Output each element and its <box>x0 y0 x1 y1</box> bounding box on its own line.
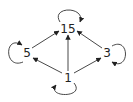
edge-5-to-15 <box>32 31 59 48</box>
loop-15 <box>58 10 80 22</box>
divisor-graph: 15 5 3 1 <box>0 0 133 102</box>
loop-3 <box>112 44 126 64</box>
edge-3-to-15 <box>77 31 102 48</box>
edge-1-to-5 <box>33 58 62 73</box>
edge-1-to-3 <box>74 58 101 73</box>
node-1: 1 <box>64 71 72 85</box>
node-3: 3 <box>103 46 111 60</box>
loop-5 <box>9 43 23 63</box>
node-15: 15 <box>60 22 75 36</box>
node-5: 5 <box>23 46 31 60</box>
